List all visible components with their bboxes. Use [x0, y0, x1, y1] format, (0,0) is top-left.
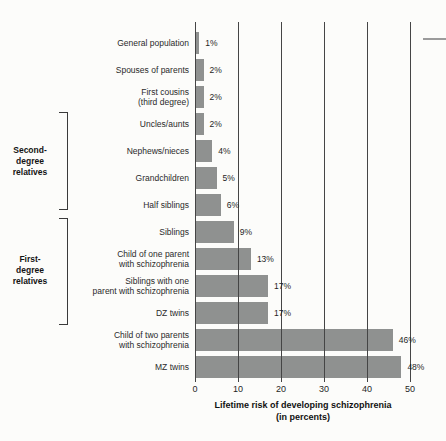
- bar: [195, 59, 204, 81]
- bar: [195, 194, 221, 216]
- page-margin-dash: [423, 38, 446, 40]
- bar-value-label: 6%: [227, 200, 239, 210]
- x-tick-label: 0: [184, 384, 206, 394]
- x-tick-label: 40: [356, 384, 378, 394]
- category-label: General population: [10, 32, 189, 54]
- bar-value-label: 17%: [274, 281, 291, 291]
- bar-value-label: 2%: [210, 65, 222, 75]
- first-degree-group-label: First- degree relatives: [2, 254, 58, 287]
- gridline: [324, 22, 325, 382]
- x-tick-label: 30: [313, 384, 335, 394]
- bar-value-label: 1%: [205, 38, 217, 48]
- bar-value-label: 46%: [399, 335, 416, 345]
- category-label: Child of two parents with schizophrenia: [10, 329, 189, 351]
- bar: [195, 113, 204, 135]
- category-label: Siblings: [10, 221, 189, 243]
- category-label: DZ twins: [10, 302, 189, 324]
- category-label: First cousins (third degree): [10, 86, 189, 108]
- category-label: MZ twins: [10, 356, 189, 378]
- bar: [195, 167, 217, 189]
- bar: [195, 140, 212, 162]
- gridline: [195, 22, 196, 382]
- bar-value-label: 17%: [274, 308, 291, 318]
- gridline: [367, 22, 368, 382]
- bar: [195, 302, 268, 324]
- schizophrenia-risk-chart: 01020304050 1%General population2%Spouse…: [0, 0, 446, 441]
- x-tick-label: 10: [227, 384, 249, 394]
- gridline: [281, 22, 282, 382]
- x-axis-title: Lifetime risk of developing schizophreni…: [195, 400, 411, 423]
- bar: [195, 248, 251, 270]
- bar-value-label: 2%: [210, 92, 222, 102]
- bar: [195, 275, 268, 297]
- second-degree-group-label: Second- degree relatives: [2, 145, 58, 178]
- bar: [195, 356, 401, 378]
- bar-value-label: 48%: [407, 362, 424, 372]
- bar: [195, 86, 204, 108]
- bar: [195, 329, 393, 351]
- bar-value-label: 9%: [240, 227, 252, 237]
- category-label: Uncles/aunts: [10, 113, 189, 135]
- x-tick-label: 50: [399, 384, 421, 394]
- bar: [195, 221, 234, 243]
- bar-value-label: 5%: [223, 173, 235, 183]
- gridline: [410, 22, 411, 382]
- category-label: Spouses of parents: [10, 59, 189, 81]
- bar-value-label: 13%: [257, 254, 274, 264]
- bar-value-label: 2%: [210, 119, 222, 129]
- bar-value-label: 4%: [218, 146, 230, 156]
- category-label: Half siblings: [10, 194, 189, 216]
- x-tick-label: 20: [270, 384, 292, 394]
